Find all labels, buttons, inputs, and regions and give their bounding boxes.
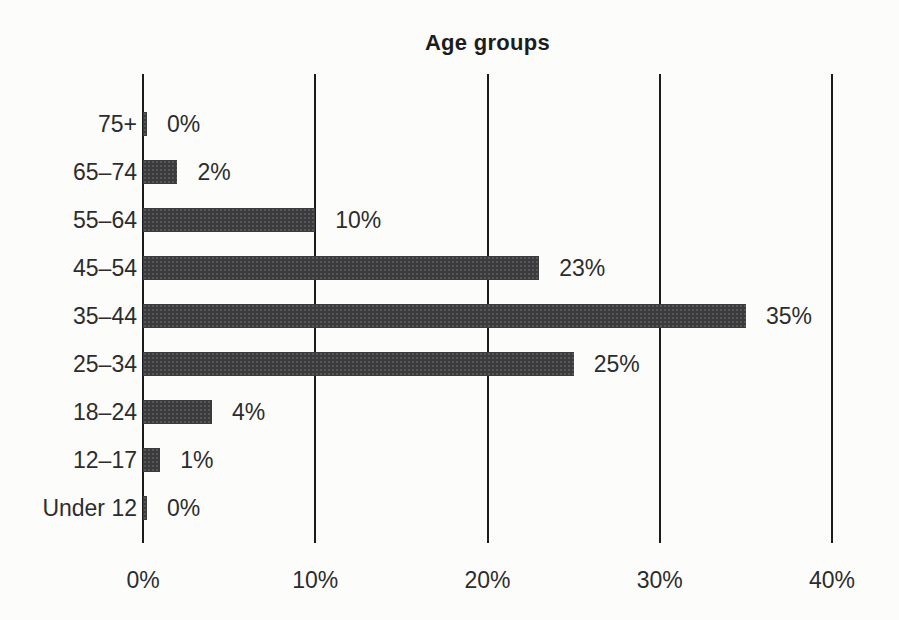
- bar: [143, 496, 147, 520]
- category-label: 65–74: [73, 157, 137, 187]
- value-label: 0%: [167, 493, 200, 523]
- category-label: 35–44: [73, 301, 137, 331]
- x-tick-label: 30%: [615, 565, 705, 595]
- value-label: 2%: [197, 157, 230, 187]
- value-label: 10%: [335, 205, 381, 235]
- value-label: 23%: [559, 253, 605, 283]
- value-label: 1%: [180, 445, 213, 475]
- category-label: 18–24: [73, 397, 137, 427]
- bar: [143, 400, 212, 424]
- bar: [143, 256, 539, 280]
- category-label: 45–54: [73, 253, 137, 283]
- category-label: 12–17: [73, 445, 137, 475]
- bar: [143, 208, 315, 232]
- value-label: 4%: [232, 397, 265, 427]
- category-label: Under 12: [42, 493, 137, 523]
- bar: [143, 112, 147, 136]
- x-tick-label: 10%: [270, 565, 360, 595]
- bar: [143, 448, 160, 472]
- value-label: 0%: [167, 109, 200, 139]
- x-tick-label: 20%: [443, 565, 533, 595]
- x-gridline: [831, 74, 833, 543]
- x-tick-label: 40%: [787, 565, 877, 595]
- bar: [143, 160, 177, 184]
- chart-title: Age groups: [143, 30, 832, 56]
- category-label: 75+: [98, 109, 137, 139]
- bar: [143, 352, 574, 376]
- value-label: 35%: [766, 301, 812, 331]
- category-label: 55–64: [73, 205, 137, 235]
- x-tick-label: 0%: [98, 565, 188, 595]
- bar: [143, 304, 746, 328]
- category-label: 25–34: [73, 349, 137, 379]
- age-groups-bar-chart: Age groups 0%10%20%30%40%75+0%65–742%55–…: [0, 0, 899, 620]
- value-label: 25%: [594, 349, 640, 379]
